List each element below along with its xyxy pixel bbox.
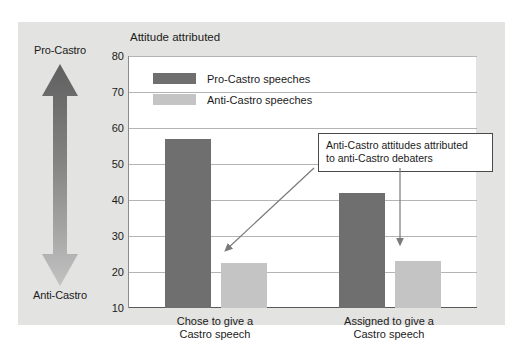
x-axis-category-label-line: Assigned to give a (302, 315, 476, 328)
annotation-callout-text: Anti-Castro attitudes attributed to anti… (326, 139, 485, 165)
annotation-line-2: to anti-Castro debaters (326, 152, 433, 164)
legend: Pro-Castro speechesAnti-Castro speeches (153, 70, 333, 112)
legend-label: Pro-Castro speeches (207, 73, 310, 85)
legend-label: Anti-Castro speeches (207, 94, 312, 106)
y-axis-ticks: 1020304050607080 (96, 56, 124, 308)
attitude-axis: Pro-Castro Anti-Castro (18, 22, 102, 325)
y-axis-tick-label: 80 (98, 50, 124, 62)
bar (395, 261, 441, 308)
y-axis-tick-label: 20 (98, 266, 124, 278)
x-axis-category-label-line: Chose to give a (128, 315, 302, 328)
legend-item: Anti-Castro speeches (153, 91, 333, 108)
y-axis-tick-label: 50 (98, 158, 124, 170)
attitude-axis-top-label: Pro-Castro (18, 44, 102, 56)
gridline (129, 128, 477, 129)
y-axis-tick-label: 60 (98, 122, 124, 134)
bar (221, 263, 267, 308)
annotation-callout: Anti-Castro attitudes attributed to anti… (318, 133, 493, 172)
bar (339, 193, 385, 308)
bar (165, 139, 211, 308)
y-axis-tick-label: 70 (98, 86, 124, 98)
x-axis-category-label-line: Castro speech (128, 328, 302, 341)
x-axis-category-label-line: Castro speech (302, 328, 476, 341)
attitude-axis-bottom-label: Anti-Castro (18, 289, 102, 301)
gridline (129, 56, 477, 57)
figure-panel: Pro-Castro Anti-Castro Attitude attribut… (18, 22, 505, 325)
y-axis-tick-label: 10 (98, 302, 124, 314)
annotation-line-1: Anti-Castro attitudes attributed (326, 139, 468, 151)
y-axis-tick-label: 30 (98, 230, 124, 242)
legend-item: Pro-Castro speeches (153, 70, 333, 87)
legend-swatch (153, 94, 196, 105)
x-axis-category-label: Assigned to give aCastro speech (302, 315, 476, 341)
chart-title: Attitude attributed (130, 31, 220, 43)
y-axis-tick-label: 40 (98, 194, 124, 206)
x-axis-category-label: Chose to give aCastro speech (128, 315, 302, 341)
double-headed-vertical-arrow-icon (42, 64, 78, 286)
legend-swatch (153, 73, 196, 84)
